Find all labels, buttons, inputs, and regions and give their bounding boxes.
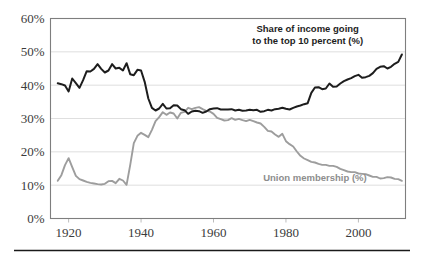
x-tick-label-1980: 1980 (273, 225, 299, 240)
chart-annotations-group: Share of income goingto the top 10 perce… (252, 23, 366, 183)
y-tick-label-60: 60% (21, 11, 45, 26)
y-tick-label-30: 30% (21, 111, 45, 126)
x-tick-label-1960: 1960 (201, 225, 227, 240)
x-tick-label-1920: 1920 (56, 225, 82, 240)
y-tick-label-40: 40% (21, 78, 45, 93)
y-tick-label-10: 10% (21, 178, 45, 193)
y-axis-tick-labels: 0%10%20%30%40%50%60% (21, 11, 45, 226)
y-tick-label-20: 20% (21, 144, 45, 159)
income-union-line-chart: 0%10%20%30%40%50%60% 1920194019601980200… (0, 0, 424, 262)
series-line-top-income-share (58, 55, 402, 114)
series-lines-group (58, 55, 402, 185)
x-axis-tick-labels: 19201940196019802000 (56, 225, 372, 240)
x-tick-label-2000: 2000 (345, 225, 371, 240)
union-membership-label: Union membership (%) (263, 172, 366, 183)
chart-figure: 0%10%20%30%40%50%60% 1920194019601980200… (0, 0, 424, 262)
x-tick-marks-group (69, 219, 359, 223)
x-tick-label-1940: 1940 (128, 225, 154, 240)
y-tick-label-50: 50% (21, 44, 45, 59)
y-tick-label-0: 0% (27, 211, 45, 226)
top-income-share-label: Share of income goingto the top 10 perce… (252, 23, 363, 46)
